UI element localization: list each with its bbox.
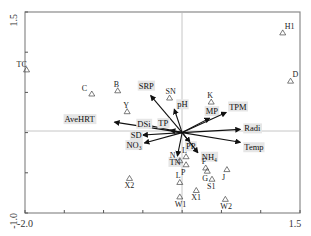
site-label: C <box>82 84 87 93</box>
vector-label: AveHRT <box>65 114 96 124</box>
vector-label: SD <box>131 130 142 140</box>
site-label: H1 <box>285 22 295 31</box>
site-label: W1 <box>175 200 187 209</box>
site-point: J <box>222 167 230 182</box>
vector-arrow <box>174 109 182 132</box>
site-point: X2 <box>125 175 135 190</box>
site-point: X1 <box>191 187 201 202</box>
triangle-marker-icon <box>89 91 95 96</box>
x-min-label: -2.0 <box>17 218 33 229</box>
site-point: C <box>82 84 95 96</box>
env-vector: Radi <box>182 123 262 133</box>
triangle-marker-icon <box>222 196 228 201</box>
ordination-biplot: -2.0 1.5 1.5 -1.0 SRPpHMPTPMRadiTempAveH… <box>0 0 311 236</box>
vector-label: Radi <box>244 123 261 133</box>
site-point: H1 <box>280 22 295 35</box>
vector-label: PP <box>186 141 196 151</box>
site-label: SN <box>166 87 176 96</box>
triangle-marker-icon <box>204 168 210 173</box>
vector-label: TPM <box>229 102 247 112</box>
site-label: L <box>182 146 187 155</box>
vector-label: Temp <box>244 142 263 152</box>
x-max-label: 1.5 <box>289 218 302 229</box>
site-points: TCCBYSNKH1DLNPFGJS1X2LX1W1W2 <box>17 22 299 211</box>
vector-label: TP <box>158 118 168 128</box>
site-label: W2 <box>220 202 232 211</box>
site-label: S1 <box>207 182 215 191</box>
site-label: K <box>207 91 213 100</box>
site-point: K <box>207 91 214 104</box>
site-label: X2 <box>125 181 135 190</box>
vector-arrow <box>182 113 226 133</box>
y-max-label: 1.5 <box>8 14 19 27</box>
y-min-label: -1.0 <box>8 213 19 229</box>
site-label: D <box>293 70 299 79</box>
plot-frame <box>25 12 300 213</box>
site-label: B <box>114 80 119 89</box>
vector-label: MP <box>206 106 219 116</box>
vector-label: SRP <box>139 81 154 91</box>
triangle-marker-icon <box>224 167 230 172</box>
vector-label: DSi <box>137 119 151 129</box>
site-label: F <box>202 157 207 166</box>
site-label: Y <box>123 101 129 110</box>
triangle-marker-icon <box>209 176 215 181</box>
site-label: P <box>181 168 186 177</box>
site-label: TC <box>17 60 27 69</box>
site-point: Y <box>123 101 130 114</box>
triangle-marker-icon <box>183 162 189 167</box>
site-label: L <box>176 171 181 180</box>
site-point: SN <box>166 87 176 100</box>
env-vector: MP <box>182 106 219 132</box>
vector-label: NO₃ <box>126 140 141 150</box>
site-label: N <box>170 151 176 160</box>
site-label: X1 <box>191 193 201 202</box>
site-label: J <box>222 173 225 182</box>
site-point: B <box>114 80 121 93</box>
triangle-marker-icon <box>193 187 199 192</box>
site-point: W2 <box>220 196 232 211</box>
axis-ticks <box>25 12 300 213</box>
site-point: S1 <box>207 176 215 191</box>
vector-label: pH <box>177 99 187 109</box>
env-vector: pH <box>174 99 188 132</box>
site-point: W1 <box>175 194 187 209</box>
site-point: TC <box>17 60 30 72</box>
site-point: D <box>288 70 299 83</box>
triangle-marker-icon <box>127 175 133 180</box>
